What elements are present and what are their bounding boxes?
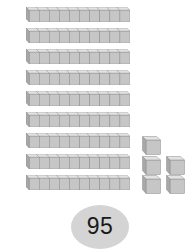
ten-rod (26, 49, 130, 64)
unit-cube (142, 175, 161, 194)
unit-cubes-group (142, 136, 188, 194)
unit-cube (142, 136, 161, 155)
ten-rod (26, 112, 130, 127)
ten-rod (26, 175, 130, 190)
unit-cube (166, 175, 185, 194)
total-count-badge: 95 (71, 205, 129, 249)
ten-rod (26, 28, 130, 43)
unit-cube (142, 156, 161, 175)
ten-rod (26, 154, 130, 169)
ten-rods-group (26, 7, 130, 197)
unit-cube (166, 156, 185, 175)
ten-rod (26, 133, 130, 148)
worksheet-canvas: 95 (0, 0, 196, 250)
total-count-value: 95 (87, 215, 114, 239)
ten-rod (26, 7, 130, 22)
ten-rod (26, 91, 130, 106)
ten-rod (26, 70, 130, 85)
